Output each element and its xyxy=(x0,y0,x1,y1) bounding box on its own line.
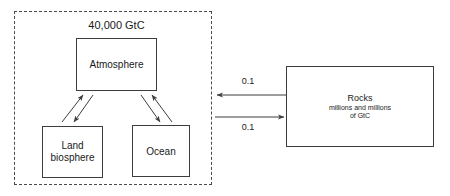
box-land-biosphere-label-line2: biosphere xyxy=(51,152,95,164)
box-ocean-label: Ocean xyxy=(146,146,175,157)
box-rocks-subtitle-line1: millions and millions xyxy=(329,104,391,113)
box-ocean: Ocean xyxy=(132,125,190,177)
box-rocks-title: Rocks xyxy=(347,93,372,104)
box-rocks: Rocks millions and millions of GtC xyxy=(286,66,434,147)
carbon-cycle-diagram: 40,000 GtC Atmosphere Land biosphere Oce… xyxy=(0,0,450,196)
region-total-label: 40,000 GtC xyxy=(60,19,173,31)
box-atmosphere: Atmosphere xyxy=(76,38,157,91)
box-land-biosphere: Land biosphere xyxy=(42,126,103,178)
box-rocks-subtitle-line2: of GtC xyxy=(350,112,370,121)
flux-label-rocks-to-atmosphere: 0.1 xyxy=(233,76,263,86)
box-atmosphere-label: Atmosphere xyxy=(90,59,144,70)
box-land-biosphere-label-line1: Land xyxy=(61,140,83,152)
flux-label-atmosphere-to-rocks: 0.1 xyxy=(233,122,263,132)
